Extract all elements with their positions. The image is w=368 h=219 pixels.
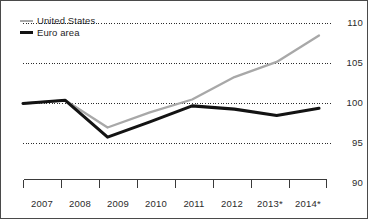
chart-container: 110 105 100 95 90 2007 2008 2009 2010 20… [0, 0, 368, 219]
legend-label-euro-area: Euro area [37, 27, 80, 38]
x-axis-label-2009: 2009 [99, 199, 137, 209]
x-axis-label-2010: 2010 [137, 199, 175, 209]
x-axis-label-2013: 2013* [251, 199, 289, 209]
legend-item-united-states: United States [20, 15, 95, 26]
y-axis-label-110: 110 [337, 18, 363, 28]
chart-legend: United States Euro area [20, 15, 95, 39]
x-axis-label-2011: 2011 [175, 199, 213, 209]
legend-item-euro-area: Euro area [20, 27, 95, 38]
legend-swatch-icon-euro-area [20, 31, 33, 34]
y-axis-label-95: 95 [337, 138, 363, 148]
x-axis-label-2014: 2014* [289, 199, 327, 209]
legend-swatch-icon-united-states [20, 20, 33, 22]
x-axis-label-2012: 2012 [213, 199, 251, 209]
y-axis-label-90: 90 [337, 178, 363, 188]
y-axis-label-105: 105 [337, 58, 363, 68]
legend-label-united-states: United States [37, 15, 95, 26]
y-axis-label-100: 100 [337, 98, 363, 108]
x-axis-label-2008: 2008 [61, 199, 99, 209]
x-axis-label-2007: 2007 [23, 199, 61, 209]
